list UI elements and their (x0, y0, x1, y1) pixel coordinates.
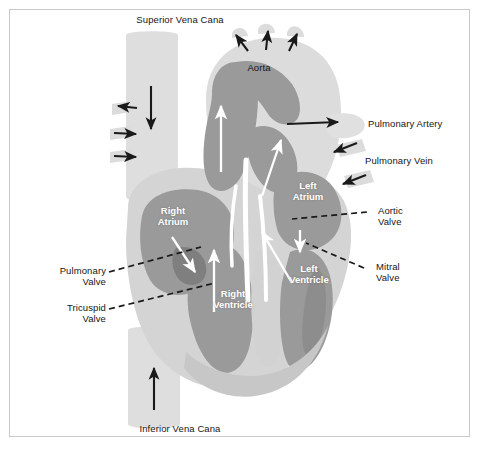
label-aortic-valve: Aortic Valve (378, 205, 403, 227)
label-pulmonary-vein: Pulmonary Vein (365, 155, 433, 166)
label-aorta: Aorta (232, 62, 286, 73)
label-pulmonary-artery: Pulmonary Artery (368, 118, 442, 129)
label-right-atrium: Right Atrium (147, 205, 199, 227)
heart-diagram-figure: Superior Vena Cana Aorta Pulmonary Arter… (0, 0, 483, 450)
label-tricuspid-valve: Tricuspid Valve (24, 302, 106, 324)
label-inferior-vena-cava: Inferior Vena Cana (104, 423, 256, 434)
svc-branch-right-upper-arrow (114, 133, 136, 134)
label-mitral-valve: Mitral Valve (376, 261, 400, 283)
label-left-ventricle: Left Ventricle (282, 263, 336, 285)
label-pulmonary-valve: Pulmonary Valve (24, 265, 106, 287)
label-right-ventricle: Right Ventricle (203, 288, 263, 310)
label-left-atrium: Left Atrium (285, 180, 331, 202)
label-superior-vena-cava: Superior Vena Cana (104, 14, 256, 25)
svc-branch-right-lower-arrow (114, 156, 136, 157)
